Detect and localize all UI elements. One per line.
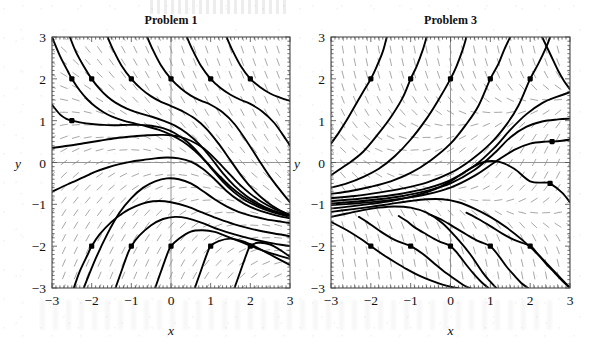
x-tick-label: 1 bbox=[487, 293, 494, 308]
slope-mark bbox=[543, 110, 549, 114]
slope-mark bbox=[557, 59, 560, 66]
slope-mark bbox=[216, 248, 222, 253]
slope-mark bbox=[509, 259, 511, 266]
slope-mark bbox=[122, 247, 125, 253]
y-axis-label: y bbox=[292, 156, 300, 171]
slope-mark bbox=[460, 148, 466, 152]
slope-mark bbox=[426, 71, 428, 78]
slope-mark bbox=[157, 222, 161, 228]
slope-mark bbox=[193, 260, 197, 266]
slope-mark bbox=[144, 174, 151, 176]
initial-condition-dot bbox=[528, 76, 533, 81]
slope-mark bbox=[276, 172, 281, 177]
slope-mark bbox=[401, 210, 405, 216]
slope-mark bbox=[181, 247, 185, 253]
slope-mark bbox=[435, 137, 442, 138]
y-tick-label: 3 bbox=[39, 30, 46, 45]
slope-mark bbox=[435, 174, 442, 176]
slope-mark bbox=[182, 59, 185, 66]
slope-mark bbox=[108, 111, 114, 114]
slope-mark bbox=[217, 97, 220, 103]
slope-mark bbox=[121, 185, 127, 189]
slope-mark bbox=[387, 174, 394, 177]
slope-mark bbox=[108, 173, 114, 177]
initial-condition-dot bbox=[168, 76, 173, 81]
slope-mark bbox=[519, 111, 526, 113]
slope-mark bbox=[364, 135, 370, 140]
slope-mark bbox=[498, 272, 499, 279]
slope-mark bbox=[353, 109, 357, 115]
slope-mark bbox=[545, 247, 547, 254]
slope-mark bbox=[341, 135, 346, 140]
slope-mark bbox=[486, 259, 488, 266]
slope-mark bbox=[353, 122, 357, 128]
slope-mark bbox=[342, 247, 343, 254]
initial-condition-dot bbox=[547, 181, 552, 186]
solution-curve bbox=[74, 201, 290, 288]
slope-mark bbox=[277, 59, 279, 66]
slope-mark bbox=[204, 135, 209, 140]
slope-mark bbox=[437, 84, 440, 91]
slope-mark bbox=[192, 235, 197, 240]
slope-mark bbox=[532, 235, 535, 241]
slope-mark bbox=[402, 234, 404, 241]
slope-mark bbox=[399, 136, 406, 138]
slope-mark bbox=[388, 123, 394, 128]
initial-condition-dot bbox=[129, 244, 134, 249]
slope-mark bbox=[191, 199, 198, 201]
slope-mark bbox=[544, 172, 547, 178]
slope-mark bbox=[264, 147, 268, 153]
slope-mark bbox=[423, 124, 430, 126]
slope-mark bbox=[73, 73, 79, 77]
slope-mark bbox=[555, 212, 562, 213]
slope-mark bbox=[472, 148, 477, 153]
slope-mark bbox=[496, 172, 501, 177]
slope-mark bbox=[485, 234, 488, 241]
slope-mark bbox=[522, 272, 523, 279]
slope-mark bbox=[555, 198, 560, 203]
slope-mark bbox=[543, 85, 548, 90]
initial-condition-dot bbox=[368, 76, 373, 81]
slope-mark bbox=[471, 186, 478, 189]
slope-mark bbox=[263, 225, 270, 226]
slope-mark bbox=[193, 122, 197, 128]
slope-mark bbox=[354, 222, 356, 229]
slope-mark bbox=[365, 96, 368, 103]
slope-mark bbox=[366, 46, 367, 53]
slope-mark bbox=[483, 112, 490, 113]
slope-mark bbox=[62, 260, 65, 267]
slope-mark bbox=[134, 260, 137, 267]
slope-mark bbox=[253, 59, 255, 66]
slope-mark bbox=[521, 46, 523, 53]
slope-field-figure: Problem 1−3−2−101233210−1−2−3xyProblem 3… bbox=[0, 0, 592, 347]
slope-mark bbox=[471, 124, 478, 126]
slope-mark bbox=[86, 210, 90, 216]
slope-mark bbox=[180, 148, 186, 152]
slope-mark bbox=[366, 59, 367, 66]
slope-mark bbox=[387, 149, 394, 151]
slope-mark bbox=[121, 97, 126, 102]
slope-mark bbox=[193, 272, 197, 278]
slope-mark bbox=[495, 123, 501, 127]
slope-mark bbox=[193, 71, 196, 78]
slope-mark bbox=[354, 84, 356, 91]
slope-mark bbox=[556, 172, 559, 178]
slope-mark bbox=[366, 259, 367, 266]
slope-mark bbox=[507, 199, 514, 201]
panel-title: Problem 1 bbox=[145, 13, 198, 27]
slope-mark bbox=[205, 59, 208, 66]
slope-mark bbox=[275, 224, 282, 226]
slope-mark bbox=[378, 259, 379, 266]
slope-mark bbox=[61, 148, 67, 152]
slope-mark bbox=[74, 197, 78, 203]
slope-mark bbox=[277, 84, 280, 91]
slope-mark bbox=[459, 199, 466, 201]
slope-mark bbox=[275, 262, 282, 264]
slope-mark bbox=[229, 97, 232, 103]
initial-condition-dot bbox=[408, 244, 413, 249]
slope-mark bbox=[227, 199, 234, 201]
slope-mark bbox=[121, 222, 125, 228]
slope-mark bbox=[402, 247, 404, 254]
slope-mark bbox=[435, 124, 442, 125]
slope-mark bbox=[217, 59, 220, 66]
